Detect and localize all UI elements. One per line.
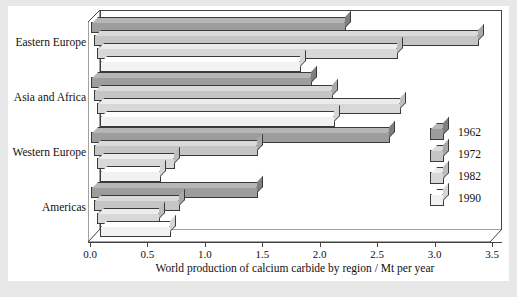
bar-top-face [98, 43, 403, 49]
x-tick-label: 0.5 [141, 248, 155, 260]
legend-label: 1962 [458, 126, 481, 138]
bar-top-face [101, 166, 166, 172]
x-tick [147, 242, 148, 247]
legend-item-1972[interactable]: 1972 [430, 144, 506, 166]
category-axis-labels: Eastern EuropeAsia and AfricaWestern Eur… [8, 10, 86, 242]
legend-label: 1982 [458, 170, 481, 182]
x-axis-title: World production of calcium carbide by r… [88, 262, 502, 274]
figure-card: Eastern EuropeAsia and AfricaWestern Eur… [8, 6, 509, 281]
bar-top-face [101, 221, 176, 227]
bar-top-face [98, 208, 165, 214]
x-tick-label: 1.0 [198, 248, 212, 260]
x-tick-label: 3.5 [485, 248, 499, 260]
bar-side-face [170, 215, 176, 232]
legend-item-1962[interactable]: 1962 [430, 122, 506, 144]
x-tick-label: 2.0 [313, 248, 327, 260]
x-tick [492, 242, 493, 247]
x-tick [90, 242, 91, 247]
legend-swatch-icon [430, 194, 444, 206]
legend-label: 1990 [458, 192, 481, 204]
x-tick [435, 242, 436, 247]
chart-legend: 1962197219821990 [430, 122, 506, 210]
legend-item-1982[interactable]: 1982 [430, 166, 506, 188]
legend-swatch-icon [430, 172, 444, 184]
category-label-western-europe: Western Europe [8, 146, 86, 158]
bar-top-face [95, 140, 263, 146]
bar-side-face [400, 92, 406, 109]
category-label-eastern-europe: Eastern Europe [8, 36, 86, 48]
legend-swatch-icon [430, 150, 444, 162]
bar-americas-1990[interactable] [100, 226, 171, 237]
category-label-americas: Americas [8, 201, 86, 213]
legend-label: 1972 [458, 148, 481, 160]
bar-top-face [95, 85, 338, 91]
bar-top-face [95, 30, 484, 36]
bar-top-face [92, 182, 263, 188]
bar-top-face [101, 56, 306, 62]
x-tick [262, 242, 263, 247]
bar-top-face [101, 111, 341, 117]
bar-group [88, 70, 502, 125]
x-tick [320, 242, 321, 247]
bar-top-face [92, 127, 395, 133]
bar-top-face [92, 17, 351, 23]
x-axis-line [88, 242, 502, 243]
category-label-asia-and-africa: Asia and Africa [8, 91, 86, 103]
x-tick [205, 242, 206, 247]
x-tick-label: 1.5 [255, 248, 269, 260]
x-tick-label: 3.0 [428, 248, 442, 260]
x-axis: 0.00.51.01.52.02.53.03.5 [88, 242, 502, 258]
x-tick-label: 0.0 [83, 248, 97, 260]
bar-side-face [345, 11, 351, 28]
bar-top-face [98, 98, 407, 104]
bar-side-face [332, 79, 338, 96]
bar-top-face [92, 72, 317, 78]
x-tick-label: 2.5 [370, 248, 384, 260]
legend-item-1990[interactable]: 1990 [430, 188, 506, 210]
legend-swatch-icon [430, 128, 444, 140]
bar-group [88, 15, 502, 70]
bar-top-face [98, 153, 180, 159]
bar-side-face [478, 24, 484, 41]
bar-top-face [95, 195, 185, 201]
x-tick [377, 242, 378, 247]
